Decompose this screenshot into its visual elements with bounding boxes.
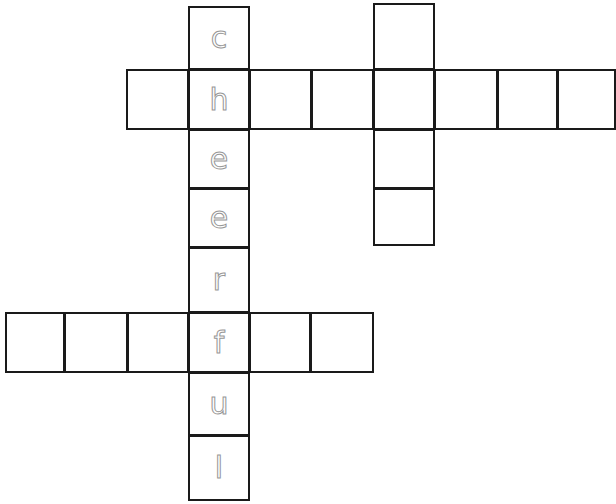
crossword-cell-v2-4[interactable] xyxy=(373,188,435,246)
traced-letter: l xyxy=(215,453,223,483)
crossword-cell-v1-4[interactable]: e xyxy=(188,188,250,248)
crossword-cell-h1-1[interactable] xyxy=(126,69,189,130)
traced-letter: c xyxy=(211,23,228,53)
crossword-cell-v2-1[interactable] xyxy=(373,3,435,70)
traced-letter: r xyxy=(213,265,225,295)
crossword-cell-h2-6[interactable] xyxy=(310,312,374,373)
traced-letter: f xyxy=(214,328,225,358)
crossword-cell-v1-8[interactable]: l xyxy=(188,435,250,501)
crossword-cell-v1-1[interactable]: c xyxy=(188,6,250,70)
crossword-cell-h1-7[interactable] xyxy=(497,69,558,130)
crossword-cell-v2-3[interactable] xyxy=(373,129,435,189)
crossword-cell-h1-4[interactable] xyxy=(311,69,374,130)
traced-letter: h xyxy=(209,85,228,115)
crossword-cell-v1-6[interactable]: f xyxy=(188,312,250,373)
crossword-cell-h1-6[interactable] xyxy=(434,69,498,130)
crossword-cell-v1-3[interactable]: e xyxy=(188,129,250,189)
crossword-cell-v1-5[interactable]: r xyxy=(188,247,250,313)
crossword-cell-h1-5[interactable] xyxy=(373,69,435,130)
crossword-cell-v1-2[interactable]: h xyxy=(188,69,250,130)
crossword-grid: cheerful xyxy=(0,0,616,504)
traced-letter: u xyxy=(209,389,228,419)
traced-letter: e xyxy=(210,144,228,174)
traced-letter: e xyxy=(210,203,228,233)
crossword-cell-h1-3[interactable] xyxy=(249,69,312,130)
crossword-cell-h1-8[interactable] xyxy=(557,69,616,130)
crossword-cell-h2-1[interactable] xyxy=(5,312,65,373)
crossword-cell-h2-5[interactable] xyxy=(249,312,311,373)
crossword-cell-h2-2[interactable] xyxy=(64,312,128,373)
crossword-cell-h2-3[interactable] xyxy=(127,312,189,373)
crossword-cell-v1-7[interactable]: u xyxy=(188,372,250,436)
